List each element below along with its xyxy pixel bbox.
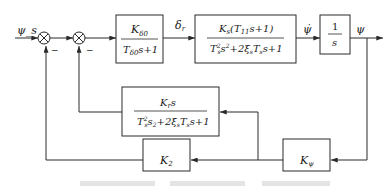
minus-sign-1: − bbox=[51, 45, 59, 55]
svg-text:T2ss2+2ξsTss+1: T2ss2+2ξsTss+1 bbox=[137, 115, 210, 128]
ship-dynamics-block: Ks(T11s+1) T2ss2+2ξsTss+1 bbox=[195, 15, 296, 63]
summing-junction-2: − bbox=[73, 32, 94, 55]
input-signal: ψ_s bbox=[15, 24, 38, 38]
output-label: ψ bbox=[356, 23, 365, 36]
minus-sign-2: − bbox=[86, 45, 94, 55]
k2-block: K2 bbox=[143, 139, 190, 171]
svg-text:1: 1 bbox=[332, 21, 338, 32]
rate-feedback-block: Krs T2ss2+2ξsTss+1 bbox=[122, 87, 219, 136]
integrator-block: 1 s bbox=[320, 15, 350, 54]
actuator-block: Kδ0 Tδ0s+1 bbox=[116, 15, 163, 63]
delta-label: δr bbox=[175, 19, 186, 33]
caption-faded bbox=[80, 181, 330, 186]
svg-text:T2ss2+2ξsTss+1: T2ss2+2ξsTss+1 bbox=[210, 42, 283, 55]
input-label: ψ_s bbox=[17, 24, 37, 37]
block-diagram: ψ_s − − Kδ0 Tδ0s+1 δr Ks(T11s+1) T2ss2+2… bbox=[0, 0, 389, 187]
rate-label: ψ̇ bbox=[303, 23, 312, 36]
kpsi-block: Kψ bbox=[283, 139, 330, 171]
svg-text:s: s bbox=[332, 37, 337, 48]
summing-junction-1: − bbox=[38, 32, 59, 55]
